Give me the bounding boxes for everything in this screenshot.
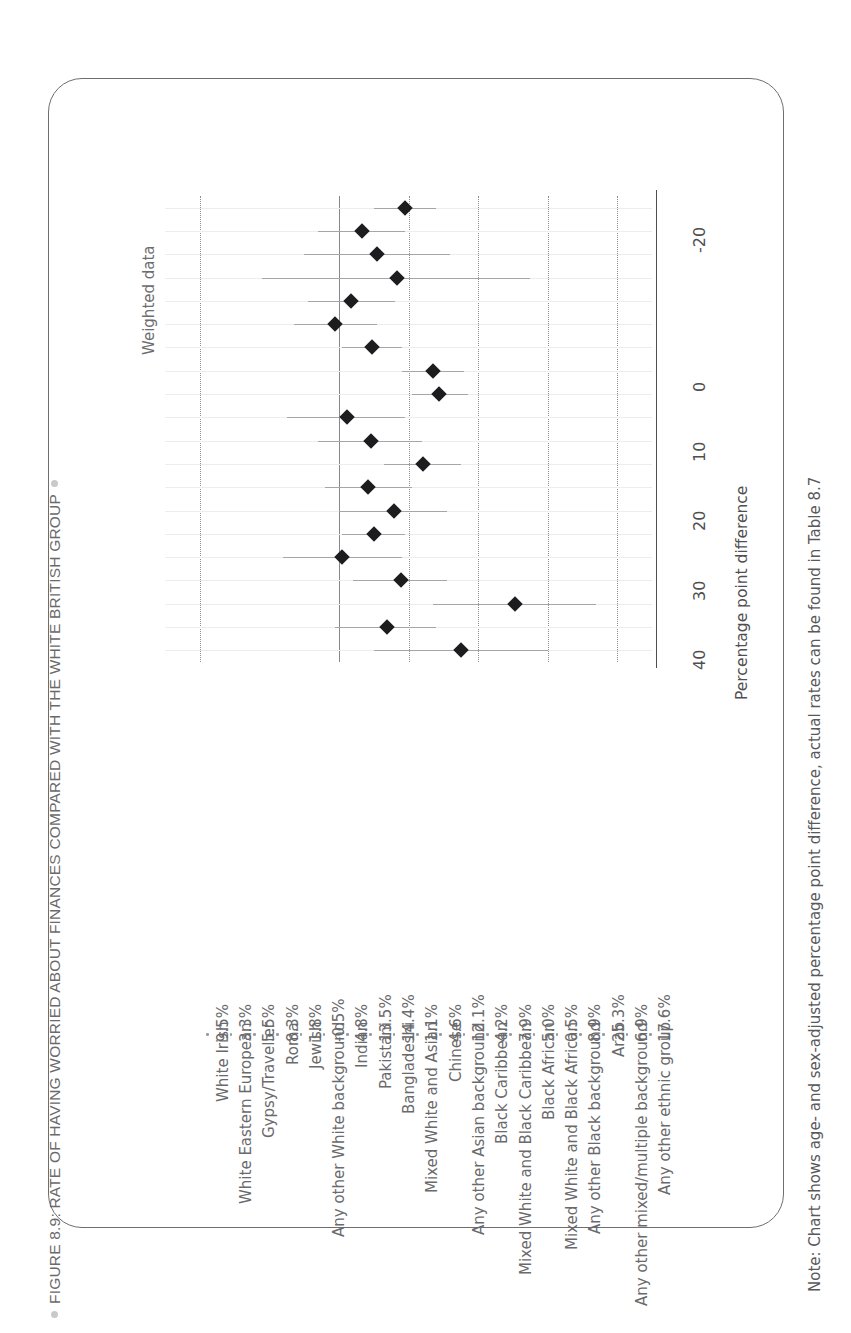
- data-point-marker[interactable]: [363, 433, 379, 449]
- data-point-marker[interactable]: [335, 549, 351, 565]
- category-value-label: 5.0%: [540, 1004, 558, 1042]
- data-point-marker[interactable]: [389, 270, 405, 286]
- data-point-marker[interactable]: [397, 200, 413, 216]
- category-gridline: [165, 301, 652, 302]
- label-separator-dot: [463, 1033, 466, 1036]
- label-separator-dot: [276, 1033, 279, 1036]
- x-axis-title: Percentage point difference: [733, 486, 751, 700]
- label-separator-dot: [579, 1033, 582, 1036]
- panel-title: Weighted data: [140, 245, 158, 355]
- data-point-marker[interactable]: [366, 526, 382, 542]
- label-separator-dot: [230, 1033, 233, 1036]
- x-axis-tick-label: -20: [690, 227, 709, 253]
- data-point-marker[interactable]: [365, 340, 381, 356]
- data-point-marker[interactable]: [379, 619, 395, 635]
- category-value-label: 9.5%: [214, 1004, 232, 1042]
- data-point-marker[interactable]: [454, 643, 470, 659]
- category-label: Mixed White and Black African: [563, 1022, 581, 1250]
- data-point-marker[interactable]: [507, 596, 523, 612]
- gridline: [409, 196, 410, 662]
- label-separator-dot: [393, 1033, 396, 1036]
- category-label: Any other Asian background: [470, 1022, 488, 1235]
- data-point-marker[interactable]: [339, 410, 355, 426]
- category-value-label: 8.3%: [284, 1004, 302, 1042]
- data-point-marker[interactable]: [328, 316, 344, 332]
- category-label: Any other Black background: [586, 1022, 604, 1234]
- data-point-marker[interactable]: [369, 246, 385, 262]
- data-point-marker[interactable]: [354, 223, 370, 239]
- data-point-marker[interactable]: [360, 479, 376, 495]
- label-separator-dot: [346, 1033, 349, 1036]
- category-label: Any other ethnic group: [656, 1022, 674, 1195]
- category-value-label: 5.5%: [260, 1004, 278, 1042]
- category-value-label: 4.6%: [447, 1004, 465, 1042]
- category-value-label: 1.8%: [307, 1004, 325, 1042]
- category-value-label: 8.9%: [586, 1004, 604, 1042]
- x-axis-spine: [656, 190, 657, 668]
- label-separator-dot: [253, 1033, 256, 1036]
- category-value-label: 17.6%: [656, 994, 674, 1042]
- category-value-label: 7.9%: [517, 1004, 535, 1042]
- category-gridline: [165, 534, 652, 535]
- label-separator-dot: [602, 1033, 605, 1036]
- x-axis-tick-label: 40: [690, 650, 709, 670]
- label-separator-dot: [206, 1033, 209, 1036]
- gridline: [617, 196, 618, 662]
- zero-reference-line: [339, 196, 340, 662]
- data-point-marker[interactable]: [393, 573, 409, 589]
- category-value-label: 4.2%: [493, 1004, 511, 1042]
- gridline: [548, 196, 549, 662]
- category-label: White Eastern European: [237, 1022, 255, 1204]
- category-value-label: 3.3%: [237, 1004, 255, 1042]
- data-point-marker[interactable]: [425, 363, 441, 379]
- category-value-label: 0.5%: [563, 1004, 581, 1042]
- data-point-marker[interactable]: [386, 503, 402, 519]
- category-value-label: 1.1%: [423, 1004, 441, 1042]
- label-separator-dot: [416, 1033, 419, 1036]
- label-separator-dot: [649, 1033, 652, 1036]
- data-point-marker[interactable]: [415, 456, 431, 472]
- label-separator-dot: [533, 1033, 536, 1036]
- category-label: Any other White background: [330, 1022, 348, 1237]
- label-separator-dot: [486, 1033, 489, 1036]
- category-gridline: [165, 324, 652, 325]
- gridline: [478, 196, 479, 662]
- label-separator-dot: [369, 1033, 372, 1036]
- label-separator-dot: [323, 1033, 326, 1036]
- category-gridline: [165, 417, 652, 418]
- label-separator-dot: [509, 1033, 512, 1036]
- category-label: Mixed White and Black Caribbean: [517, 1022, 535, 1275]
- label-separator-dot: [300, 1033, 303, 1036]
- label-separator-dot: [556, 1033, 559, 1036]
- data-point-marker[interactable]: [344, 293, 360, 309]
- plot-region: [165, 196, 652, 662]
- category-gridline: [165, 231, 652, 232]
- chart-area: Weighted data Percentage point differenc…: [0, 0, 851, 1333]
- data-point-marker[interactable]: [431, 386, 447, 402]
- category-gridline: [165, 394, 652, 395]
- x-axis-tick-label: 0: [690, 382, 709, 392]
- x-axis-tick-label: 20: [690, 511, 709, 531]
- category-value-label: 4.8%: [353, 1004, 371, 1042]
- category-gridline: [165, 347, 652, 348]
- gridline: [200, 196, 201, 662]
- category-gridline: [165, 557, 652, 558]
- x-axis-tick-label: 10: [690, 441, 709, 461]
- category-label: Any other mixed/multiple background: [633, 1022, 651, 1306]
- label-separator-dot: [439, 1033, 442, 1036]
- category-label: Mixed White and Asian: [423, 1022, 441, 1193]
- category-value-label: 6.9%: [633, 1004, 651, 1042]
- x-axis-tick-label: 30: [690, 580, 709, 600]
- label-separator-dot: [626, 1033, 629, 1036]
